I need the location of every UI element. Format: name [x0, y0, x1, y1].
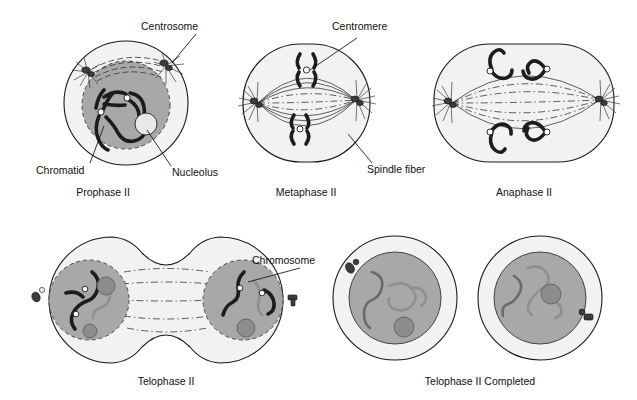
nucleolus-icon: [237, 319, 255, 337]
label-chromatid: Chromatid: [36, 164, 85, 176]
panel-telophase-2-completed: Telophase II Completed: [333, 236, 602, 387]
stage-label-telophase-2: Telophase II: [138, 375, 195, 387]
centromere-icon: [73, 311, 79, 317]
centromere-icon: [487, 68, 493, 74]
nucleolus-icon: [394, 317, 414, 337]
leader-centrosome: [172, 34, 196, 63]
centromere-icon: [487, 129, 493, 135]
label-spindle-fiber: Spindle fiber: [367, 163, 426, 175]
label-centromere: Centromere: [332, 20, 388, 32]
centrosome-icon-left: [30, 287, 44, 303]
nucleolus-icon: [135, 113, 157, 135]
centromere-icon: [303, 67, 309, 73]
stage-label-telophase-2-completed: Telophase II Completed: [425, 375, 535, 387]
centrosome-icon-right: [288, 295, 297, 306]
centromere-icon: [297, 126, 303, 132]
label-nucleolus: Nucleolus: [172, 166, 218, 178]
centromere-icon: [544, 66, 550, 72]
daughter-cell-left: [333, 236, 457, 360]
panel-prophase-2: Centrosome Chromatid Nucleolus Prophase …: [36, 20, 218, 198]
stage-label-metaphase-2: Metaphase II: [276, 186, 337, 198]
panel-anaphase-2: Anaphase II: [432, 44, 620, 198]
nucleolus-icon: [541, 284, 561, 304]
stage-label-anaphase-2: Anaphase II: [496, 186, 552, 198]
cell-membrane: [434, 44, 614, 162]
nucleolus-icon: [97, 277, 115, 295]
label-centrosome: Centrosome: [141, 20, 198, 32]
centromere-icon: [259, 290, 265, 296]
panel-telophase-2: Chromosome Telophase II: [30, 237, 315, 387]
centromere-icon: [544, 129, 550, 135]
centromere-icon: [124, 95, 130, 101]
centromere-icon: [82, 286, 88, 292]
centromere-icon: [237, 285, 243, 291]
nucleolus-icon: [83, 324, 97, 338]
meiosis-ii-diagram: Centrosome Chromatid Nucleolus Prophase …: [0, 0, 637, 400]
centromere-icon: [98, 109, 104, 115]
stage-label-prophase-2: Prophase II: [76, 186, 130, 198]
daughter-cell-right: [478, 236, 602, 360]
leader-spindle-fiber: [348, 134, 372, 163]
label-chromosome: Chromosome: [252, 254, 315, 266]
panel-metaphase-2: Centromere Spindle fiber Metaphase II: [238, 20, 426, 198]
nucleus: [494, 252, 586, 344]
